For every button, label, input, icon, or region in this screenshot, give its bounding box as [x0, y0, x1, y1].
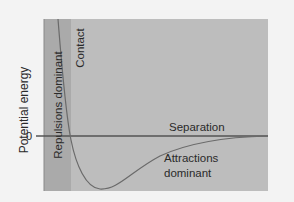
potential-energy-diagram: Potential energy 0 Repulsions dominant C…	[0, 0, 294, 202]
attractions-label-line2: dominant	[164, 167, 212, 179]
zero-tick-label: 0	[26, 130, 32, 142]
separation-label: Separation	[169, 121, 225, 133]
attractions-label-line1: Attractions	[164, 152, 219, 164]
contact-label: Contact	[74, 27, 86, 67]
repulsions-dominant-label: Repulsions dominant	[52, 51, 64, 159]
